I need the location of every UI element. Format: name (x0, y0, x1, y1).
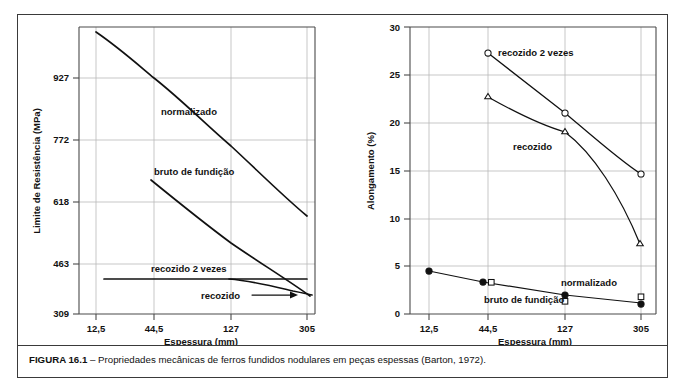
y-tick-label-left-0: 309 (53, 308, 69, 319)
caption-body: Propriedades mecânicas de ferros fundido… (98, 354, 486, 365)
y-tick-label-right-4: 20 (389, 117, 400, 128)
x-axis-title-left: Espessura (mm) (164, 336, 238, 345)
series-label-recozido-right: recozido (513, 141, 552, 152)
series-label-bruto-right: bruto de fundição (484, 294, 564, 305)
y-tick-label-right-2: 10 (389, 213, 400, 224)
series-label-recozido2-right: recozido 2 vezes (498, 47, 574, 58)
figure-caption: FIGURA 16.1 – Propriedades mecânicas de … (29, 353, 657, 366)
y-tick-label-right-3: 15 (389, 165, 400, 176)
curve-normalizado-left (96, 32, 307, 216)
chart-left-svg: 309 463 618 772 927 12,5 44,5 127 305 Es… (18, 15, 348, 345)
plot-frame-right (410, 27, 656, 314)
x-tick-label-left-1: 44,5 (145, 323, 164, 334)
x-tick-label-right-2: 127 (557, 323, 573, 334)
x-tick-label-left-2: 127 (223, 323, 239, 334)
series-label-recozido-left: recozido (201, 290, 240, 301)
chart-right-elongation: 0 5 10 15 20 25 30 12,5 44,5 127 305 Esp… (348, 15, 669, 345)
caption-divider (18, 345, 667, 346)
recozido-arrow-left (252, 292, 298, 299)
y-tick-label-right-0: 0 (395, 308, 400, 319)
y-tick-label-left-4: 927 (53, 72, 69, 83)
y-axis-title-left: Limite de Resistência (MPa) (31, 108, 42, 234)
x-tick-label-right-1: 44,5 (479, 323, 498, 334)
figure-container: 309 463 618 772 927 12,5 44,5 127 305 Es… (17, 14, 668, 378)
series-label-bruto-left: bruto de fundição (154, 166, 234, 177)
x-axis-title-right: Espessura (mm) (498, 336, 572, 345)
curve-recozido-right (488, 97, 640, 244)
caption-dash: – (87, 354, 98, 365)
x-ticks-left (96, 314, 307, 320)
x-tick-label-left-3: 305 (299, 323, 316, 334)
y-tick-label-right-5: 25 (389, 69, 400, 80)
y-ticks-left (73, 78, 79, 314)
y-tick-label-left-2: 618 (53, 196, 69, 207)
y-tick-label-right-1: 5 (395, 260, 401, 271)
curve-recozido-left (229, 279, 312, 295)
x-tick-label-right-0: 12,5 (420, 323, 439, 334)
x-ticks-right (429, 314, 641, 320)
chart-left-tensile-strength: 309 463 618 772 927 12,5 44,5 127 305 Es… (18, 15, 348, 345)
y-axis-title-right: Alongamento (%) (365, 132, 376, 210)
y-ticks-right (404, 27, 410, 314)
caption-figure-number: FIGURA 16.1 (29, 354, 87, 365)
chart-right-svg: 0 5 10 15 20 25 30 12,5 44,5 127 305 Esp… (348, 15, 669, 345)
grid-vertical-right (429, 27, 641, 314)
x-tick-label-right-3: 305 (633, 323, 650, 334)
x-tick-label-left-0: 12,5 (87, 323, 106, 334)
series-label-normalizado-left: normalizado (161, 106, 217, 117)
grid-horizontal-right (410, 75, 656, 266)
y-tick-label-left-3: 772 (53, 134, 69, 145)
y-tick-label-left-1: 463 (53, 258, 69, 269)
series-label-recozido2-left: recozido 2 vezes (151, 263, 227, 274)
series-label-normalizado-right: normalizado (561, 277, 617, 288)
y-tick-label-right-6: 30 (389, 22, 400, 33)
